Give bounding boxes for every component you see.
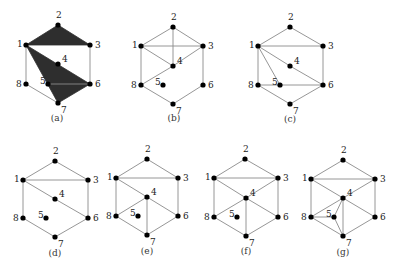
vertex-2 (52, 158, 57, 163)
edge-8-7 (258, 85, 290, 104)
vertex-label: 8 (13, 213, 19, 223)
vertex-label: 1 (205, 172, 211, 182)
edge-1-4 (214, 178, 246, 198)
vertex-8 (23, 81, 28, 86)
panel-a: 12345678(a) (16, 10, 101, 123)
vertex-label: 6 (208, 80, 214, 90)
vertex-2 (170, 24, 175, 29)
vertex-5 (43, 215, 48, 220)
vertex-label: 4 (250, 188, 256, 198)
vertex-5 (45, 81, 50, 86)
vertex-6 (275, 214, 280, 219)
panel-caption: (a) (51, 113, 63, 123)
edge-7-6 (246, 217, 278, 236)
edge-1-4 (141, 46, 173, 66)
vertex-label: 8 (16, 79, 22, 89)
vertex-6 (87, 81, 92, 86)
vertex-label: 6 (93, 213, 99, 223)
vertex-2 (55, 22, 60, 27)
edge-7-6 (290, 85, 323, 104)
vertex-label: 6 (328, 80, 334, 90)
edge-2-3 (173, 27, 203, 46)
panel-caption: (f) (241, 246, 251, 256)
vertex-7 (55, 100, 60, 105)
edge-4-6 (55, 199, 88, 218)
vertex-label: 4 (62, 54, 68, 64)
vertex-6 (200, 82, 205, 87)
vertex-label: 1 (132, 40, 138, 50)
vertex-label: 3 (328, 41, 334, 51)
vertex-label: 3 (380, 174, 386, 184)
vertex-label: 6 (183, 211, 189, 221)
vertex-label: 1 (14, 174, 20, 184)
edge-8-7 (214, 217, 246, 236)
vertex-8 (255, 82, 260, 87)
panel-d: 12345678(d) (13, 146, 99, 258)
vertex-label: 8 (106, 211, 112, 221)
vertex-6 (372, 214, 377, 219)
panel-b: 12345678(b) (131, 12, 214, 123)
panel-caption: (e) (141, 246, 153, 256)
vertex-label: 1 (302, 173, 308, 183)
edge-7-6 (147, 216, 178, 235)
vertex-5 (331, 214, 336, 219)
vertex-label: 2 (53, 146, 59, 156)
vertex-label: 2 (56, 10, 62, 20)
panel-caption: (g) (337, 247, 350, 257)
edge-1-2 (258, 27, 290, 46)
vertex-4 (55, 61, 60, 66)
edge-2-3 (343, 160, 375, 179)
vertex-6 (320, 82, 325, 87)
vertex-3 (175, 175, 180, 180)
graph-figure: 12345678(a)12345678(b)12345678(c)1234567… (0, 0, 402, 273)
edge-1-2 (23, 161, 55, 180)
vertex-1 (138, 43, 143, 48)
vertex-label: 4 (177, 56, 183, 66)
vertex-7 (170, 101, 175, 106)
vertex-5 (160, 82, 165, 87)
vertex-7 (287, 101, 292, 106)
vertex-3 (200, 43, 205, 48)
vertex-label: 5 (229, 209, 235, 219)
edge-2-3 (55, 161, 88, 180)
shaded-face (26, 25, 90, 45)
vertex-2 (340, 157, 345, 162)
vertex-4 (287, 63, 292, 68)
vertex-label: 1 (249, 40, 255, 50)
vertex-8 (211, 214, 216, 219)
vertex-5 (135, 213, 140, 218)
edge-2-3 (147, 159, 178, 178)
vertex-label: 3 (283, 173, 289, 183)
edge-7-6 (343, 217, 375, 236)
vertex-label: 5 (38, 210, 44, 220)
vertex-1 (211, 175, 216, 180)
vertex-2 (144, 156, 149, 161)
vertex-label: 2 (171, 12, 177, 22)
edge-4-6 (246, 198, 278, 217)
vertex-label: 5 (326, 209, 332, 219)
vertex-4 (170, 63, 175, 68)
edge-4-6 (147, 197, 178, 216)
vertex-3 (85, 177, 90, 182)
vertex-label: 3 (93, 175, 99, 185)
vertex-8 (20, 215, 25, 220)
panel-caption: (b) (168, 113, 181, 123)
vertex-8 (308, 214, 313, 219)
edge-2-3 (245, 159, 278, 178)
vertex-5 (277, 82, 282, 87)
edge-1-4 (311, 179, 343, 198)
edge-8-7 (141, 85, 173, 104)
vertex-4 (243, 195, 248, 200)
vertex-4 (144, 194, 149, 199)
vertex-7 (52, 234, 57, 239)
vertex-8 (138, 82, 143, 87)
vertex-label: 4 (294, 56, 300, 66)
vertex-6 (175, 213, 180, 218)
edge-7-6 (55, 218, 88, 237)
panel-e: 12345678(e) (106, 144, 189, 256)
vertex-label: 3 (183, 173, 189, 183)
vertex-1 (113, 175, 118, 180)
vertex-label: 8 (248, 80, 254, 90)
vertex-4 (52, 196, 57, 201)
edge-1-2 (311, 160, 343, 179)
